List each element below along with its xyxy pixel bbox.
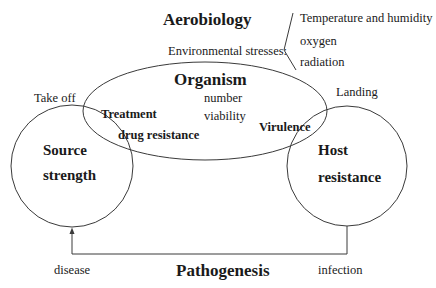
drug-resistance-label: drug resistance bbox=[118, 129, 199, 142]
source-label: Source bbox=[43, 143, 87, 158]
aerobiology-diagram: Aerobiology Environmental stresses: Temp… bbox=[0, 0, 436, 288]
env-item-temperature: Temperature and humidity bbox=[300, 12, 432, 25]
take-off-label: Take off bbox=[34, 92, 76, 105]
landing-label: Landing bbox=[336, 86, 378, 99]
treatment-label: Treatment bbox=[101, 108, 157, 121]
virulence-label: Virulence bbox=[259, 121, 311, 134]
arrowhead-icon bbox=[70, 228, 75, 235]
resistance-label: resistance bbox=[318, 170, 381, 185]
pathogenesis-arrow bbox=[72, 226, 347, 254]
host-label: Host bbox=[318, 143, 348, 158]
env-item-radiation: radiation bbox=[300, 56, 344, 69]
pathogenesis-title: Pathogenesis bbox=[176, 262, 270, 279]
organism-number: number bbox=[204, 92, 242, 105]
env-item-oxygen: oxygen bbox=[300, 35, 337, 48]
organism-viability: viability bbox=[204, 110, 246, 123]
title-aerobiology: Aerobiology bbox=[163, 11, 251, 28]
strength-label: strength bbox=[43, 168, 96, 183]
organism-title: Organism bbox=[174, 71, 247, 88]
source-circle bbox=[11, 105, 133, 227]
environment-bracket bbox=[284, 13, 296, 70]
infection-label: infection bbox=[318, 264, 362, 277]
environmental-stresses-label: Environmental stresses: bbox=[168, 45, 287, 58]
disease-label: disease bbox=[54, 264, 90, 277]
